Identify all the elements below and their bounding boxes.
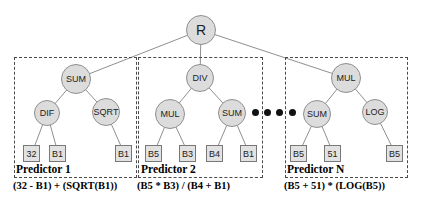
predictor-2-title: Predictor 2 xyxy=(141,163,196,175)
pn-op-top: MUL xyxy=(331,63,361,93)
p2-op-right: SUM xyxy=(218,99,246,127)
p2-op-top: DIV xyxy=(186,64,214,92)
predictor-1-formula: (32 - B1) + (SQRT(B1)) xyxy=(13,180,117,191)
p1-leaf-2: B1 xyxy=(115,145,132,162)
root-node: R xyxy=(186,15,216,45)
gp-expression-tree-diagram: R SUM DIF SQRT 32 B1 B1 DIV MUL SUM B5 B… xyxy=(0,0,422,203)
p1-leaf-0: 32 xyxy=(23,145,40,162)
p1-op-right: SQRT xyxy=(92,98,120,126)
predictor-n-title: Predictor N xyxy=(287,163,344,175)
p1-op-top: SUM xyxy=(61,64,91,94)
p2-leaf-2: B4 xyxy=(206,145,223,162)
pn-leaf-2: B5 xyxy=(386,145,403,162)
pn-op-right: LOG xyxy=(362,99,388,125)
ellipsis-dot xyxy=(252,109,259,116)
ellipsis-dot xyxy=(264,109,271,116)
ellipsis-dot xyxy=(289,109,296,116)
p2-op-left: MUL xyxy=(155,99,185,129)
p2-leaf-3: B1 xyxy=(240,145,257,162)
p1-op-left: DIF xyxy=(34,100,60,126)
pn-op-left: SUM xyxy=(303,100,331,128)
p2-leaf-0: B5 xyxy=(145,145,162,162)
predictor-1-title: Predictor 1 xyxy=(16,163,71,175)
p2-leaf-1: B3 xyxy=(179,145,196,162)
predictor-n-formula: (B5 + 51) * (LOG(B5)) xyxy=(284,180,385,191)
ellipsis-dot xyxy=(276,109,283,116)
pn-leaf-1: 51 xyxy=(324,145,341,162)
predictor-2-formula: (B5 * B3) / (B4 + B1) xyxy=(137,180,230,191)
p1-leaf-1: B1 xyxy=(49,145,66,162)
pn-leaf-0: B5 xyxy=(290,145,307,162)
